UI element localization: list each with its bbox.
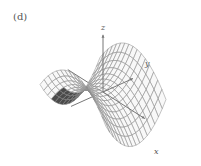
- z-arrow-icon: [102, 35, 105, 38]
- z-axis-label: z: [100, 23, 106, 32]
- x-axis-label: x: [154, 147, 159, 156]
- y-axis-label: y: [144, 59, 150, 68]
- saddle-surface-plot: z y x: [0, 0, 201, 166]
